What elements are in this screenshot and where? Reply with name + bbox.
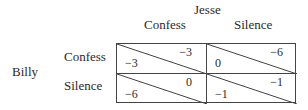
jesse-payoff: −1 [270, 75, 283, 90]
payoff-cell-confess-confess: −3 −3 [117, 44, 207, 74]
payoff-cell-silence-silence: −1 −1 [207, 74, 297, 104]
column-player-label: Jesse [194, 2, 221, 18]
row-strategy-silence: Silence [64, 78, 102, 94]
billy-payoff: −3 [125, 56, 138, 71]
jesse-payoff: −6 [270, 45, 283, 60]
payoff-cell-silence-confess: 0 −6 [117, 74, 207, 104]
billy-payoff: −6 [125, 87, 138, 102]
payoff-matrix: −3 −3 −6 0 0 −6 −1 −1 [116, 43, 296, 103]
billy-payoff: −1 [215, 87, 228, 102]
payoff-cell-confess-silence: −6 0 [207, 44, 297, 74]
column-strategy-silence: Silence [234, 17, 272, 33]
jesse-payoff: 0 [186, 75, 192, 90]
row-player-label: Billy [12, 64, 38, 80]
billy-payoff: 0 [215, 56, 221, 71]
column-strategy-confess: Confess [144, 17, 186, 33]
row-strategy-confess: Confess [64, 49, 106, 65]
jesse-payoff: −3 [179, 45, 192, 60]
